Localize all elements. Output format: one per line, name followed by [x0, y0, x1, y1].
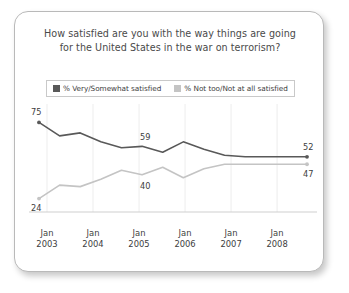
- x-tick-2008: Jan2008: [257, 228, 297, 250]
- x-tick-year: 2005: [119, 239, 159, 250]
- x-tick-year: 2006: [165, 239, 205, 250]
- legend-swatch-not-satisfied: [174, 85, 181, 92]
- point-label-40: 40: [140, 181, 150, 191]
- series-point: [37, 197, 41, 201]
- x-tick-month: Jan: [73, 228, 113, 239]
- legend-item-not-satisfied: % Not too/Not at all satisfied: [174, 84, 287, 93]
- x-tick-2006: Jan2006: [165, 228, 205, 250]
- chart-legend: % Very/Somewhat satisfied % Not too/Not …: [46, 80, 295, 97]
- x-tick-2007: Jan2007: [211, 228, 251, 250]
- x-tick-month: Jan: [119, 228, 159, 239]
- point-label-59: 59: [140, 132, 150, 142]
- legend-label-satisfied: % Very/Somewhat satisfied: [63, 84, 161, 93]
- chart-title: How satisfied are you with the way thing…: [15, 27, 324, 55]
- point-label-24: 24: [31, 203, 41, 213]
- x-tick-2005: Jan2005: [119, 228, 159, 250]
- series-point: [37, 121, 41, 125]
- x-tick-2004: Jan2004: [73, 228, 113, 250]
- legend-swatch-satisfied: [53, 85, 60, 92]
- x-axis-tick-labels: Jan2003Jan2004Jan2005Jan2006Jan2007Jan20…: [15, 228, 324, 258]
- point-label-75: 75: [31, 107, 41, 117]
- x-tick-month: Jan: [165, 228, 205, 239]
- x-tick-2003: Jan2003: [27, 228, 67, 250]
- point-label-52: 52: [303, 142, 313, 152]
- series-line-not-satisfied: [39, 164, 307, 198]
- chart-svg: [15, 104, 324, 229]
- chart-title-line-2: for the United States in the war on terr…: [15, 41, 324, 55]
- x-tick-month: Jan: [27, 228, 67, 239]
- series-line-satisfied: [39, 122, 307, 156]
- x-tick-year: 2003: [27, 239, 67, 250]
- series-point: [305, 155, 309, 159]
- chart-plot-area: 752459405247: [15, 104, 324, 229]
- x-tick-month: Jan: [211, 228, 251, 239]
- chart-screenshot: How satisfied are you with the way thing…: [0, 0, 349, 293]
- legend-label-not-satisfied: % Not too/Not at all satisfied: [184, 84, 287, 93]
- x-tick-year: 2007: [211, 239, 251, 250]
- legend-item-satisfied: % Very/Somewhat satisfied: [53, 84, 161, 93]
- x-tick-year: 2008: [257, 239, 297, 250]
- chart-card: How satisfied are you with the way thing…: [14, 11, 324, 272]
- x-tick-year: 2004: [73, 239, 113, 250]
- chart-title-line-1: How satisfied are you with the way thing…: [15, 27, 324, 41]
- series-point: [305, 162, 309, 166]
- x-tick-month: Jan: [257, 228, 297, 239]
- point-label-47: 47: [303, 169, 313, 179]
